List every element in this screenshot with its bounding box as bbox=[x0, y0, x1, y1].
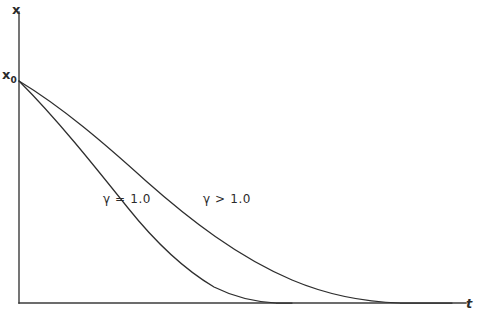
initial-value-label: x0 bbox=[2, 68, 17, 85]
curve-gamma-equal-one bbox=[19, 81, 292, 303]
annotation-gamma-greater-one: γ > 1.0 bbox=[203, 193, 251, 205]
x-axis-label: t bbox=[466, 297, 472, 310]
initial-value-subscript: 0 bbox=[10, 75, 16, 85]
annotation-gamma-equal-one: γ = 1.0 bbox=[103, 193, 151, 205]
figure-canvas bbox=[0, 0, 478, 319]
y-axis-label: x bbox=[12, 3, 21, 16]
decay-curves-figure: x t x0 γ = 1.0 γ > 1.0 bbox=[0, 0, 478, 319]
